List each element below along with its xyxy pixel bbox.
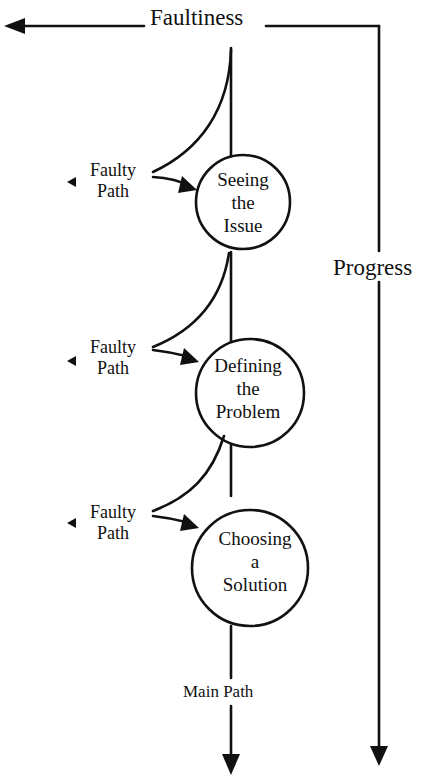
node-label-line-2: the bbox=[198, 377, 298, 400]
faulty-path-label-line-2: Path bbox=[73, 523, 153, 544]
faultiness-arrowhead-icon bbox=[4, 18, 25, 34]
faulty-path-label-line-1: Faulty bbox=[73, 160, 153, 181]
node-label-line-2: a bbox=[205, 550, 305, 573]
main-path-arrowhead-icon bbox=[222, 754, 240, 775]
faulty-path-label-1: Faulty Path bbox=[73, 160, 153, 202]
node-label-line-3: Issue bbox=[193, 214, 293, 237]
faulty-return-line-2 bbox=[153, 350, 186, 356]
faulty-path-label-line-2: Path bbox=[73, 181, 153, 202]
node-label-line-1: Defining bbox=[198, 354, 298, 377]
faulty-return-line-3 bbox=[153, 516, 186, 522]
main-path-label: Main Path bbox=[183, 680, 253, 703]
node-label-line-1: Choosing bbox=[205, 527, 305, 550]
faulty-path-label-line-1: Faulty bbox=[73, 502, 153, 523]
faulty-curve-2 bbox=[153, 253, 229, 347]
progress-arrowhead-icon bbox=[370, 746, 388, 766]
node-label-choosing-a-solution: Choosing a Solution bbox=[205, 527, 305, 596]
progress-label: Progress bbox=[329, 256, 416, 279]
faulty-path-label-2: Faulty Path bbox=[73, 337, 153, 379]
node-label-line-3: Solution bbox=[205, 573, 305, 596]
faultiness-label: Faultiness bbox=[146, 6, 247, 29]
faulty-path-label-line-2: Path bbox=[73, 358, 153, 379]
faulty-curve-1 bbox=[153, 50, 231, 172]
node-label-seeing-the-issue: Seeing the Issue bbox=[193, 168, 293, 237]
faulty-curve-3 bbox=[153, 436, 224, 511]
faulty-return-arrowhead-icon-3 bbox=[180, 514, 199, 531]
faulty-return-arrowhead-icon-2 bbox=[180, 348, 199, 365]
node-label-line-3: Problem bbox=[198, 400, 298, 423]
node-label-line-1: Seeing bbox=[193, 168, 293, 191]
faulty-path-label-line-1: Faulty bbox=[73, 337, 153, 358]
node-label-line-2: the bbox=[193, 191, 293, 214]
node-label-defining-the-problem: Defining the Problem bbox=[198, 354, 298, 423]
faulty-path-label-3: Faulty Path bbox=[73, 502, 153, 544]
